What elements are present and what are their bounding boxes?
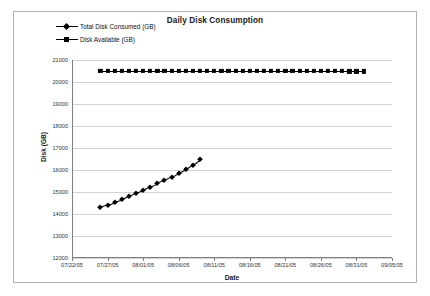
gridline	[72, 258, 392, 259]
data-point-marker	[105, 202, 110, 207]
series-line-segment	[150, 183, 158, 187]
data-point-marker	[105, 68, 109, 72]
x-tick-mark	[356, 258, 357, 261]
x-tick-label: 08/16/05	[239, 262, 261, 268]
data-point-marker	[148, 68, 152, 72]
x-tick-label: 07/22/05	[61, 262, 83, 268]
gridline	[72, 236, 392, 237]
data-point-marker	[276, 69, 280, 73]
gridline	[72, 82, 392, 83]
x-tick-mark	[108, 258, 109, 261]
data-point-marker	[155, 68, 159, 72]
data-point-marker	[127, 68, 131, 72]
y-axis-line	[72, 60, 73, 258]
series-line-segment	[164, 71, 171, 72]
data-point-marker	[112, 200, 117, 205]
series-line-segment	[207, 71, 214, 72]
series-line-segment	[122, 196, 129, 200]
data-point-marker	[297, 69, 301, 73]
x-tick-mark	[285, 258, 286, 261]
series-line-segment	[236, 71, 243, 72]
series-line-segment	[356, 71, 363, 72]
y-tick-label: 14000	[52, 211, 68, 217]
series-line-segment	[243, 71, 250, 72]
chart-legend: Total Disk Consumed (GB) Disk Available …	[56, 20, 156, 46]
chart-container: Daily Disk Consumption Total Disk Consum…	[13, 11, 417, 283]
series-line-segment	[228, 71, 235, 72]
series-line-segment	[257, 71, 264, 72]
data-point-marker	[197, 157, 202, 162]
series-line-segment	[129, 193, 137, 197]
series-line-segment	[100, 71, 107, 72]
series-line-segment	[285, 71, 292, 72]
data-point-marker	[205, 69, 209, 73]
data-point-marker	[333, 69, 337, 73]
series-line-segment	[164, 177, 172, 181]
data-point-marker	[354, 69, 358, 73]
x-tick-mark	[72, 258, 73, 261]
gridline	[72, 60, 392, 61]
series-line-segment	[179, 71, 186, 72]
gridline	[72, 192, 392, 193]
data-point-marker	[126, 194, 131, 199]
plot-area: 1200013000140001500016000170001800019000…	[72, 60, 392, 258]
series-line-segment	[114, 200, 121, 204]
data-point-marker	[134, 68, 138, 72]
data-point-marker	[162, 68, 166, 72]
series-line-segment	[172, 71, 179, 72]
series-line-segment	[271, 71, 278, 72]
series-line-segment	[307, 71, 314, 72]
x-axis-title: Date	[72, 274, 392, 281]
series-line-segment	[171, 173, 179, 178]
x-tick-label: 08/26/05	[310, 262, 332, 268]
series-line-segment	[214, 71, 221, 72]
gridline	[72, 214, 392, 215]
data-point-marker	[283, 69, 287, 73]
data-point-marker	[177, 69, 181, 73]
gridline	[72, 170, 392, 171]
x-tick-label: 08/31/05	[346, 262, 368, 268]
x-tick-label: 07/27/05	[97, 262, 119, 268]
y-tick-label: 18000	[52, 123, 68, 129]
series-line-segment	[328, 71, 335, 72]
y-tick-label: 21000	[52, 57, 68, 63]
x-tick-label: 08/21/05	[274, 262, 296, 268]
y-tick-label: 19000	[52, 101, 68, 107]
y-tick-label: 12000	[52, 255, 68, 261]
series-line-segment	[107, 202, 114, 206]
series-line-segment	[292, 71, 299, 72]
data-point-marker	[113, 68, 117, 72]
series-line-segment	[100, 205, 107, 209]
series-line-segment	[300, 71, 307, 72]
x-tick-mark	[143, 258, 144, 261]
x-tick-mark	[179, 258, 180, 261]
data-point-marker	[190, 162, 195, 167]
data-point-marker	[184, 69, 188, 73]
data-point-marker	[361, 69, 365, 73]
x-tick-mark	[392, 258, 393, 261]
series-line-segment	[136, 71, 143, 72]
series-line-segment	[321, 71, 328, 72]
data-point-marker	[255, 69, 259, 73]
gridline	[72, 104, 392, 105]
legend-item-total-disk-consumed[interactable]: Total Disk Consumed (GB)	[56, 20, 156, 33]
legend-item-disk-available[interactable]: Disk Available (GB)	[56, 33, 156, 46]
data-point-marker	[191, 69, 195, 73]
data-point-marker	[155, 181, 160, 186]
data-point-marker	[119, 197, 124, 202]
data-point-marker	[162, 177, 167, 182]
series-line-segment	[122, 71, 129, 72]
series-line-segment	[349, 71, 356, 72]
series-line-segment	[278, 71, 285, 72]
data-point-marker	[148, 184, 153, 189]
y-axis-title: Disk (GB)	[40, 132, 47, 162]
data-point-marker	[262, 69, 266, 73]
data-point-marker	[169, 174, 174, 179]
series-line-segment	[221, 71, 228, 72]
series-line-segment	[335, 71, 342, 72]
data-point-marker	[305, 69, 309, 73]
data-point-marker	[233, 69, 237, 73]
series-disk-available	[72, 60, 392, 258]
series-line-segment	[157, 71, 164, 72]
series-line-segment	[143, 187, 151, 192]
